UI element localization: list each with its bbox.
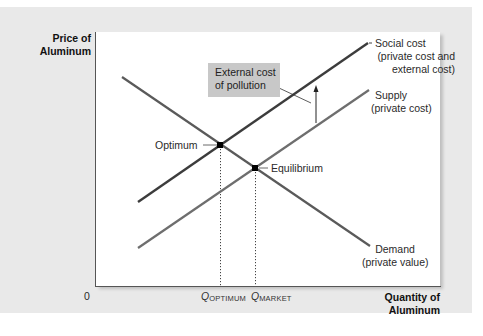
supply-label-line1: Supply bbox=[371, 89, 432, 102]
q-market-symbol: Q bbox=[251, 290, 259, 302]
supply-label: Supply (private cost) bbox=[371, 89, 432, 115]
q-optimum-tick: QOPTIMUM bbox=[201, 290, 246, 303]
social-cost-label: Social cost (private cost and external c… bbox=[373, 37, 455, 76]
demand-label: Demand (private value) bbox=[362, 243, 428, 269]
x-axis-title-line2: Aluminum bbox=[385, 304, 440, 317]
external-cost-line1: External cost bbox=[215, 66, 280, 79]
y-axis-title-line2: Aluminum bbox=[40, 45, 91, 58]
y-axis-title: Price of Aluminum bbox=[40, 32, 91, 58]
y-axis-title-line1: Price of bbox=[40, 32, 91, 45]
equilibrium-label: Equilibrium bbox=[271, 162, 323, 175]
social-cost-label-line1: Social cost bbox=[373, 37, 455, 50]
arrow-head-icon bbox=[314, 85, 319, 92]
external-cost-line2: of pollution bbox=[215, 79, 280, 92]
supply-label-line2: (private cost) bbox=[371, 102, 432, 115]
equilibrium-point bbox=[252, 165, 258, 171]
optimum-label: Optimum bbox=[155, 139, 198, 152]
x-axis-title: Quantity of Aluminum bbox=[385, 291, 440, 317]
q-market-tick: QMARKET bbox=[251, 290, 292, 303]
demand-label-line1: Demand bbox=[362, 243, 428, 256]
origin-label: 0 bbox=[84, 290, 90, 303]
external-cost-box: External cost of pollution bbox=[208, 63, 280, 97]
q-market-subscript: MARKET bbox=[259, 294, 291, 303]
q-optimum-subscript: OPTIMUM bbox=[209, 294, 246, 303]
q-optimum-symbol: Q bbox=[201, 290, 209, 302]
social-cost-label-line2: (private cost and bbox=[373, 50, 455, 63]
social-cost-label-line3: external cost) bbox=[373, 63, 455, 76]
demand-label-line2: (private value) bbox=[362, 256, 428, 269]
optimum-point bbox=[217, 142, 223, 148]
demand-curve bbox=[122, 77, 370, 246]
x-axis-title-line1: Quantity of bbox=[385, 291, 440, 304]
